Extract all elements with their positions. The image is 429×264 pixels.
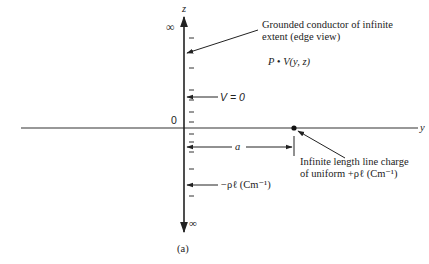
line-charge-point <box>291 125 296 130</box>
diagram-canvas <box>0 0 429 264</box>
conductor-leader-arrow <box>187 30 258 53</box>
line-charge-leader-arrow <box>298 131 345 158</box>
distance-label: a <box>235 141 240 153</box>
origin-label: 0 <box>171 114 177 126</box>
conductor-label-line1: Grounded conductor of infinite <box>262 19 393 31</box>
y-axis-label: y <box>420 122 425 134</box>
bottom-infinity-label: ∞ <box>189 217 197 229</box>
conductor-label-line2: extent (edge view) <box>262 31 340 43</box>
z-axis-label: z <box>182 3 186 15</box>
figure-caption: (a) <box>177 243 189 255</box>
surface-charge-ticks <box>189 38 194 196</box>
point-label: P • V(y, z) <box>268 56 310 68</box>
image-charge-label: −ρℓ (Cm⁻¹) <box>221 179 271 191</box>
potential-label: V = 0 <box>220 91 245 103</box>
line-charge-label-line1: Infinite length line charge <box>300 156 409 168</box>
line-charge-label-line2: of uniform +ρℓ (Cm⁻¹) <box>300 168 398 180</box>
top-infinity-label: ∞ <box>166 21 175 33</box>
